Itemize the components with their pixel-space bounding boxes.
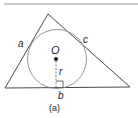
side-a-label: a bbox=[18, 38, 24, 49]
side-c-label: c bbox=[83, 34, 88, 45]
center-point bbox=[54, 57, 58, 61]
side-b-label: b bbox=[58, 90, 64, 101]
incircle-diagram: O r a c b (a) bbox=[0, 0, 138, 118]
right-angle-marker bbox=[56, 81, 63, 88]
figure-caption: (a) bbox=[49, 103, 60, 113]
radius-label: r bbox=[59, 66, 63, 77]
center-label: O bbox=[51, 44, 60, 56]
triangle bbox=[5, 14, 130, 88]
